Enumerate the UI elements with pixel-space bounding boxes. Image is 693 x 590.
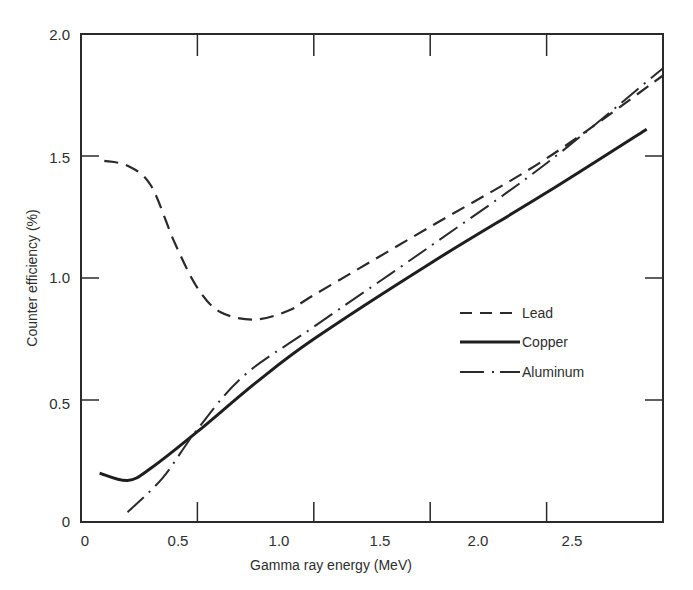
x-axis-title: Gamma ray energy (MeV) (250, 557, 412, 573)
x-tick-label: 0 (81, 532, 89, 549)
y-tick-label: 0.5 (49, 395, 70, 412)
lead-line (104, 76, 663, 320)
legend-label: Copper (522, 334, 568, 350)
y-tick-label: 1.0 (49, 269, 70, 286)
y-tick-label: 0 (62, 513, 70, 530)
plot-frame (81, 34, 663, 522)
x-tick-label: 1.5 (370, 532, 391, 549)
legend-label: Lead (522, 305, 553, 321)
series-layer (100, 68, 663, 512)
x-tick-label: 0.5 (168, 532, 189, 549)
y-axis-ticks: 0 0.5 1.0 1.5 2.0 (49, 26, 70, 530)
x-axis-ticks: 0 0.5 1.0 1.5 2.0 2.5 (81, 532, 583, 549)
legend-item-lead: Lead (460, 305, 553, 321)
x-tick-label: 1.0 (269, 532, 290, 549)
y-tick-label: 2.0 (49, 26, 70, 43)
x-tick-label: 2.5 (562, 532, 583, 549)
legend-item-aluminum: Aluminum (460, 364, 584, 380)
legend-item-copper: Copper (460, 334, 568, 350)
axis-ticks (81, 34, 663, 522)
aluminum-line (128, 68, 663, 512)
legend: Lead Copper Aluminum (460, 305, 584, 380)
y-axis-title: Counter efficiency (%) (24, 209, 40, 346)
legend-label: Aluminum (522, 364, 584, 380)
x-tick-label: 2.0 (468, 532, 489, 549)
efficiency-chart: 0 0.5 1.0 1.5 2.0 0 0.5 1.0 1.5 2.0 2.5 … (0, 0, 693, 590)
y-tick-label: 1.5 (49, 149, 70, 166)
copper-line (100, 129, 647, 480)
